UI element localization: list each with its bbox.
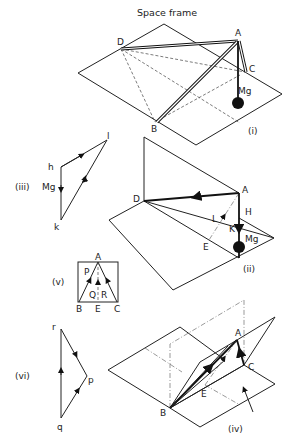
figure-iii-label-l: l: [107, 131, 110, 141]
figure-ii-vertical-plane: [144, 137, 239, 201]
diagram-title: Space frame: [137, 7, 197, 18]
figure-i-label-C: C: [249, 64, 255, 74]
figure-ii-label-Mg: Mg: [245, 234, 258, 244]
figure-v-label-R: R: [101, 290, 107, 300]
figure-v-label-B: B: [76, 304, 82, 314]
figure-i: D A C B Mg (i): [78, 24, 282, 145]
figure-vi-caption: (vi): [15, 371, 30, 381]
figure-iii-label-h: h: [48, 162, 54, 172]
figure-v: A P Q R B E C (v): [52, 252, 120, 314]
figure-i-mass: [232, 97, 244, 109]
figure-ii-label-D: D: [133, 194, 140, 204]
figure-ii-label-A: A: [242, 185, 249, 195]
figure-ii-caption: (ii): [243, 264, 255, 274]
figure-vi: r p q (vi): [15, 322, 94, 432]
figure-iv-label-A: A: [235, 328, 242, 338]
figure-ii-label-L: L: [212, 214, 217, 224]
figure-vi-triangle: [61, 329, 87, 418]
figure-i-label-D: D: [117, 37, 124, 47]
figure-iv-caption: (iv): [228, 424, 243, 434]
figure-iv-right-plane: [170, 365, 275, 427]
figure-iii: l h Mg k (iii): [15, 131, 110, 232]
figure-ii-mass: [233, 241, 245, 253]
figure-v-label-A: A: [95, 252, 102, 262]
figure-vi-label-q: q: [57, 422, 63, 432]
figure-i-label-A: A: [235, 28, 242, 38]
figure-v-label-C: C: [114, 304, 120, 314]
figure-vi-label-p: p: [88, 375, 94, 385]
figure-ii-member-AD: [144, 193, 239, 201]
figure-i-label-Mg: Mg: [238, 86, 251, 96]
figure-v-caption: (v): [52, 277, 64, 287]
figure-ii-label-H: H: [245, 207, 252, 217]
figure-iii-caption: (iii): [15, 182, 30, 192]
figure-v-label-Q: Q: [89, 290, 96, 300]
figure-v-label-P: P: [84, 267, 90, 277]
figure-i-caption: (i): [248, 126, 258, 136]
figure-iv-label-C: C: [248, 362, 254, 372]
figure-iv-label-B: B: [160, 408, 166, 418]
figure-iii-label-k: k: [54, 222, 60, 232]
figure-i-label-B: B: [151, 124, 157, 134]
figure-iv: A C E B (iv): [108, 300, 275, 434]
figure-iii-label-Mg: Mg: [42, 182, 55, 192]
figure-v-label-E: E: [95, 304, 101, 314]
figure-ii-label-K: K: [229, 224, 236, 234]
figure-ii: D A H L K Mg E (ii): [109, 137, 274, 290]
space-frame-diagram: Space frame D A C B Mg (i) l h Mg: [0, 0, 290, 444]
figure-iv-label-E: E: [201, 389, 207, 399]
figure-ii-label-E: E: [203, 242, 209, 252]
figure-vi-label-r: r: [52, 322, 56, 332]
